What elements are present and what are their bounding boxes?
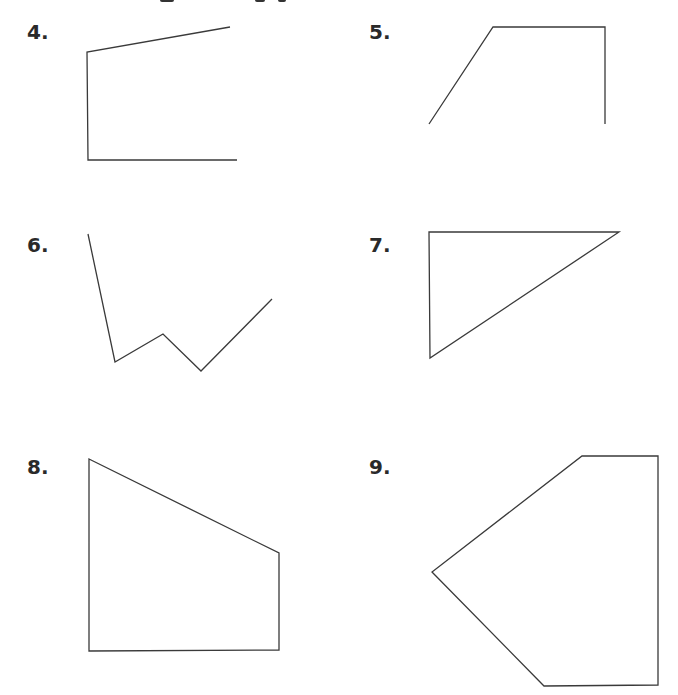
figure-8-quadrilateral	[89, 459, 279, 651]
figures-canvas	[0, 0, 678, 695]
figure-6-open-shape	[88, 234, 272, 371]
figure-7-triangle	[429, 232, 619, 358]
figure-5-open-shape	[429, 27, 605, 124]
figure-4-open-shape	[87, 27, 237, 160]
figure-9-pentagon	[432, 456, 658, 686]
